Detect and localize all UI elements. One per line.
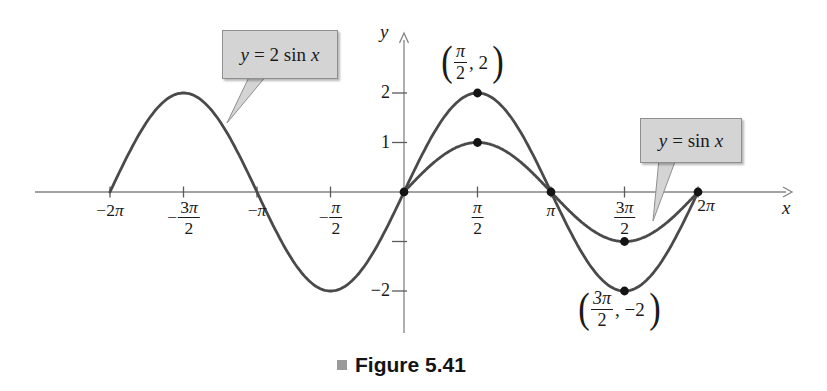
sine-curves-plot xyxy=(0,0,827,391)
callout-2sinx-tail xyxy=(227,75,267,123)
data-point-dot xyxy=(547,188,556,197)
data-point-dot xyxy=(694,188,703,197)
data-point-dot xyxy=(620,237,629,246)
data-point-dot xyxy=(620,287,629,296)
data-point-dot xyxy=(400,188,409,197)
data-point-dot xyxy=(473,138,482,147)
figure-5-41: −2π−3π2−π−π2π2π3π22π21−2 y x y = 2 sin x… xyxy=(0,0,827,391)
callout-sinx-tail xyxy=(653,159,676,221)
data-point-dot xyxy=(473,89,482,98)
